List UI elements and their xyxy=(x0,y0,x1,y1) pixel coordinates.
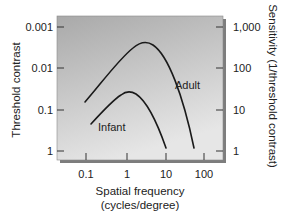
y-left-tick-2: 0.1 xyxy=(38,104,53,116)
y-right-tick-3: 1 xyxy=(233,145,239,157)
x-tick-2: 10 xyxy=(160,168,172,180)
y-right-tick-2: 10 xyxy=(233,104,245,116)
x-tick-1: 1 xyxy=(124,168,130,180)
adult-label: Adult xyxy=(175,79,200,91)
x-axis-title-line2: (cycles/degree) xyxy=(101,199,180,211)
infant-label: Infant xyxy=(98,121,126,133)
y-right-tick-0: 1,000 xyxy=(233,21,261,33)
y-right-tick-1: 100 xyxy=(233,62,251,74)
y-left-tick-0: 0.001 xyxy=(25,21,53,33)
x-tick-0: 0.1 xyxy=(78,168,93,180)
y-left-tick-3: 1 xyxy=(47,145,53,157)
y-left-tick-1: 0.01 xyxy=(32,62,53,74)
x-axis-title-line1: Spatial frequency xyxy=(96,185,185,197)
y-right-axis-title: Sensitivity (1/threshold contrast) xyxy=(267,4,279,168)
chart: 0.001 0.01 0.1 1 1,000 100 10 1 0.1 1 10… xyxy=(0,0,288,219)
y-left-axis-title: Threshold contrast xyxy=(10,42,22,138)
x-tick-3: 100 xyxy=(195,168,213,180)
